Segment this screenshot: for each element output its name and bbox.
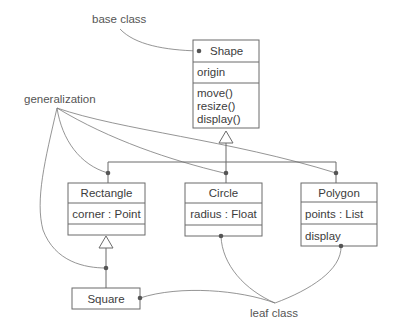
generalization-anchor-dot-icon (334, 171, 339, 176)
class-name: Polygon (318, 187, 360, 199)
class-name: Shape (210, 45, 243, 57)
generalization-arrowhead-icon (99, 236, 113, 248)
class-attribute: radius : Float (190, 208, 257, 220)
class-operation: resize() (197, 100, 236, 112)
class-attribute: corner : Point (72, 208, 141, 220)
class-name: Circle (209, 187, 238, 199)
base-class-label: base class (92, 13, 147, 25)
class-circle[interactable]: Circle radius : Float (185, 183, 262, 236)
leaf-class-anchor-dot-icon (339, 244, 344, 249)
leaf-class-anchor-dot-icon (219, 234, 224, 239)
inheritance-tree-shape (108, 131, 336, 183)
class-attribute: origin (197, 66, 225, 78)
class-operation: move() (197, 87, 233, 99)
class-shape[interactable]: Shape origin move() resize() display() (193, 40, 259, 128)
pointer-to-rectangle-generalization (57, 108, 108, 173)
class-operation: display() (197, 113, 241, 125)
pointer-to-square (140, 290, 275, 303)
generalization-anchor-dot-icon (104, 266, 109, 271)
class-rectangle[interactable]: Rectangle corner : Point (68, 183, 145, 235)
generalization-label: generalization (24, 93, 96, 105)
class-polygon[interactable]: Polygon points : List display (301, 183, 377, 246)
leaf-class-label: leaf class (250, 307, 298, 319)
generalization-anchor-dot-icon (106, 171, 111, 176)
inheritance-tree-rectangle (99, 236, 113, 288)
class-operation: display (305, 230, 341, 242)
generalization-arrowhead-icon (219, 131, 233, 143)
class-square[interactable]: Square (72, 288, 140, 309)
class-name: Square (87, 293, 124, 305)
generalization-anchor-dot-icon (224, 171, 229, 176)
pointer-to-circle (221, 236, 275, 303)
class-name: Rectangle (81, 187, 133, 199)
base-class-anchor-dot-icon (197, 49, 202, 54)
base-class-pointer (120, 29, 198, 51)
pointer-to-polygon (275, 246, 341, 303)
class-attribute: points : List (305, 208, 364, 220)
leaf-class-anchor-dot-icon (138, 296, 143, 301)
uml-class-diagram: base class generalization leaf class Sha… (0, 0, 398, 330)
